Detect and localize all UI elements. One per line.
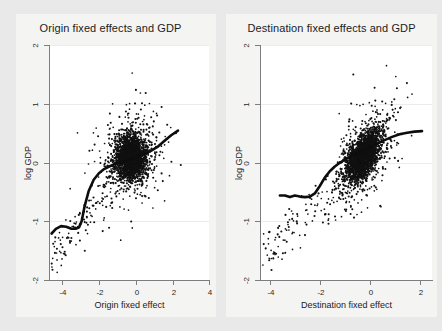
figure-container: Origin fixed effects and GDP 2 1 0 -1 -2… xyxy=(0,0,442,331)
chart-panel-destination: Destination fixed effects and GDP 2 1 0 … xyxy=(221,0,442,331)
y-tick-neg2 xyxy=(44,280,49,281)
x-tick-label-2: 2 xyxy=(167,288,181,297)
x-axis-line-left xyxy=(49,280,210,281)
y-tick-label-neg1-r: -1 xyxy=(242,215,251,229)
x-tick-2-r xyxy=(420,280,421,285)
x-tick-label-neg4-r: -4 xyxy=(264,288,278,297)
x-tick-label-4: 4 xyxy=(203,288,217,297)
x-tick-0-r xyxy=(370,280,371,285)
y-tick-neg2-r xyxy=(255,280,260,281)
scatter-plot-left xyxy=(49,45,209,280)
x-tick-neg4 xyxy=(62,280,63,285)
scatter-plot-right xyxy=(260,45,432,280)
x-tick-0 xyxy=(136,280,137,285)
x-tick-label-neg4: -4 xyxy=(56,288,70,297)
chart-title-destination: Destination fixed effects and GDP xyxy=(221,22,442,34)
x-tick-neg2-r xyxy=(320,280,321,285)
x-tick-neg4-r xyxy=(270,280,271,285)
x-tick-2 xyxy=(173,280,174,285)
y-tick-label-2-r: 2 xyxy=(242,39,251,53)
x-axis-title-origin: Origin fixed effect xyxy=(49,300,210,310)
chart-panel-origin: Origin fixed effects and GDP 2 1 0 -1 -2… xyxy=(0,0,221,331)
chart-title-origin: Origin fixed effects and GDP xyxy=(0,22,221,34)
x-axis-title-destination: Destination fixed effect xyxy=(260,300,433,310)
y-tick-label-neg2: -2 xyxy=(31,274,40,288)
y-tick-label-2: 2 xyxy=(31,39,40,53)
y-tick-label-neg2-r: -2 xyxy=(242,274,251,288)
y-axis-title-left: log GDP xyxy=(23,133,33,193)
x-axis-line-right xyxy=(260,280,433,281)
y-tick-label-neg1: -1 xyxy=(31,215,40,229)
x-tick-label-0-r: 0 xyxy=(364,288,378,297)
y-tick-label-1: 1 xyxy=(31,98,40,112)
y-axis-title-right: log GDP xyxy=(234,133,244,193)
x-tick-label-neg2: -2 xyxy=(93,288,107,297)
x-tick-label-neg2-r: -2 xyxy=(314,288,328,297)
x-tick-label-0: 0 xyxy=(130,288,144,297)
y-tick-label-1-r: 1 xyxy=(242,98,251,112)
x-tick-neg2 xyxy=(99,280,100,285)
x-tick-4 xyxy=(209,280,210,285)
x-tick-label-2-r: 2 xyxy=(414,288,428,297)
